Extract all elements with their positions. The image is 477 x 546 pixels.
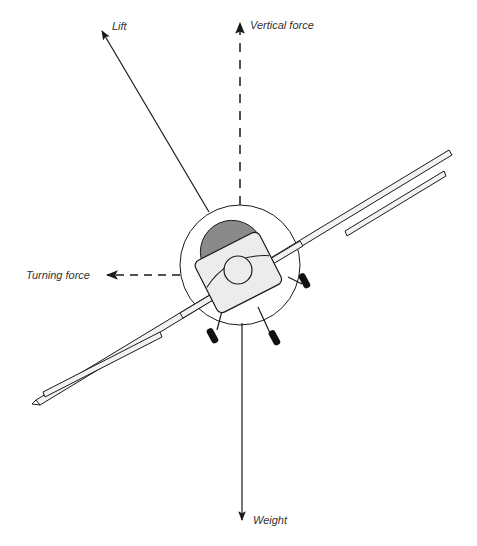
left-aileron <box>43 332 162 397</box>
lift-label: Lift <box>112 20 128 32</box>
weight-label: Weight <box>253 514 288 526</box>
right-wheel-icon <box>268 329 282 346</box>
lift-arrow <box>102 31 209 212</box>
propeller-hub <box>224 256 252 284</box>
right-gear-strut <box>258 307 270 333</box>
wingtip-wheel-icon <box>298 272 312 289</box>
banked-turn-force-diagram: Lift Vertical force Turning force Weight <box>0 0 477 546</box>
vertical-force-label: Vertical force <box>250 19 314 31</box>
turning-force-label: Turning force <box>26 269 90 281</box>
